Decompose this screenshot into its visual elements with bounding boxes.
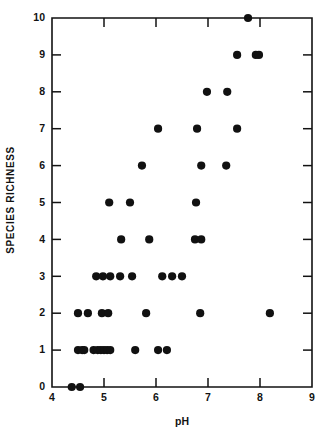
data-point xyxy=(126,198,134,206)
data-point xyxy=(233,125,241,133)
data-point xyxy=(233,51,241,59)
x-tick-label: 8 xyxy=(257,391,263,403)
data-point xyxy=(196,309,204,317)
data-point xyxy=(266,309,274,317)
y-axis-ticks xyxy=(52,55,312,350)
data-point xyxy=(255,51,263,59)
data-point xyxy=(76,383,84,391)
data-point xyxy=(223,88,231,96)
y-tick-label: 4 xyxy=(39,233,45,245)
data-point xyxy=(142,309,150,317)
data-point-group xyxy=(68,14,274,391)
data-point xyxy=(106,272,114,280)
y-tick-label: 5 xyxy=(39,196,45,208)
data-point xyxy=(222,162,230,170)
y-axis-title: SPECIES RICHNESS xyxy=(5,146,16,253)
y-tick-label: 3 xyxy=(39,270,45,282)
data-point xyxy=(154,125,162,133)
y-tick-label: 7 xyxy=(39,122,45,134)
data-point xyxy=(117,235,125,243)
x-tick-label: 4 xyxy=(49,391,55,403)
data-point xyxy=(178,272,186,280)
y-tick-label: 10 xyxy=(33,11,45,23)
data-point xyxy=(145,235,153,243)
data-point xyxy=(244,14,252,22)
data-point xyxy=(168,272,176,280)
data-point xyxy=(197,235,205,243)
data-point xyxy=(74,309,82,317)
axis-frame-path xyxy=(52,18,312,387)
data-point xyxy=(128,272,136,280)
data-point xyxy=(138,162,146,170)
data-point xyxy=(197,162,205,170)
y-tick-label: 9 xyxy=(39,48,45,60)
plot-canvas: 012345678910 456789 pH SPECIES RICHNESS xyxy=(0,0,326,437)
y-tick-label: 0 xyxy=(39,380,45,392)
x-tick-label: 9 xyxy=(309,391,315,403)
data-point xyxy=(192,198,200,206)
x-axis-tick-labels: 456789 xyxy=(49,391,315,403)
data-point xyxy=(158,272,166,280)
data-point xyxy=(116,272,124,280)
data-point xyxy=(163,346,171,354)
x-tick-label: 7 xyxy=(205,391,211,403)
data-point xyxy=(99,272,107,280)
data-point xyxy=(106,346,114,354)
y-axis-tick-labels: 012345678910 xyxy=(33,11,45,392)
axis-frame xyxy=(52,18,312,387)
data-point xyxy=(80,346,88,354)
data-point xyxy=(104,309,112,317)
data-point xyxy=(203,88,211,96)
x-axis-title: pH xyxy=(175,415,189,427)
x-tick-label: 5 xyxy=(101,391,107,403)
data-point xyxy=(131,346,139,354)
y-tick-label: 2 xyxy=(39,306,45,318)
x-tick-label: 6 xyxy=(153,391,159,403)
y-tick-label: 1 xyxy=(39,343,45,355)
data-point xyxy=(84,309,92,317)
y-tick-label: 8 xyxy=(39,85,45,97)
scatter-plot-figure: 012345678910 456789 pH SPECIES RICHNESS xyxy=(0,0,326,437)
y-tick-label: 6 xyxy=(39,159,45,171)
data-point xyxy=(193,125,201,133)
data-point xyxy=(105,198,113,206)
data-point xyxy=(154,346,162,354)
data-point xyxy=(68,383,76,391)
